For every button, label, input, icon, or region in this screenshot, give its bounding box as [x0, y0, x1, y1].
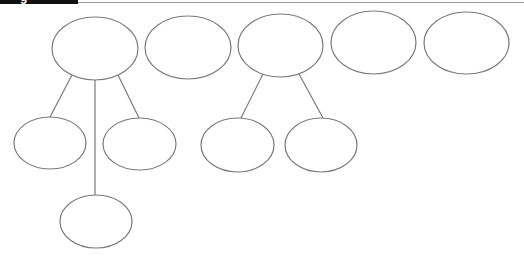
node-top-2	[145, 16, 231, 79]
node-top-4	[331, 11, 416, 74]
node-top-1	[52, 17, 138, 80]
tree-diagram	[0, 0, 524, 257]
node-child-1a	[14, 117, 86, 169]
node-child-3a	[201, 118, 274, 172]
edge-top-3-to-child-3b	[299, 74, 323, 118]
nodes	[14, 11, 509, 248]
node-child-3b	[285, 118, 357, 172]
edge-top-1-to-child-1a	[50, 75, 72, 117]
node-top-5	[424, 12, 509, 74]
node-top-3	[238, 14, 323, 77]
edge-top-1-to-child-1b	[118, 75, 139, 118]
node-child-1c	[60, 195, 132, 248]
edges	[50, 74, 323, 195]
node-child-1b	[103, 118, 176, 170]
edge-top-3-to-child-3a	[241, 74, 263, 118]
